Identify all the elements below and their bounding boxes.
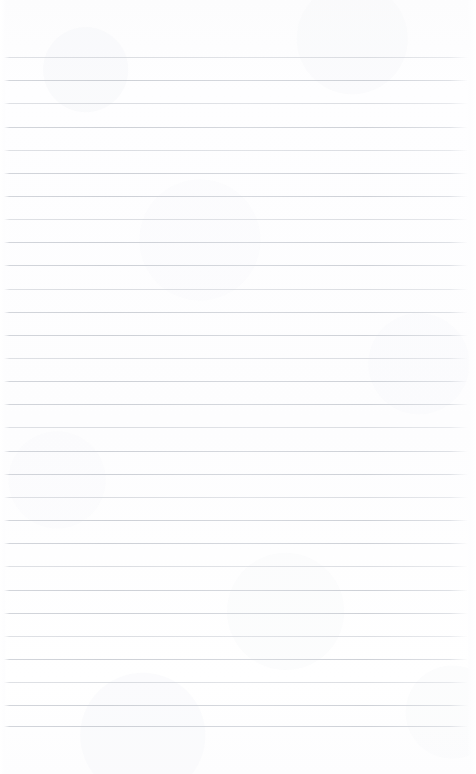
writing-area[interactable] bbox=[0, 0, 476, 774]
lined-paper-page bbox=[0, 0, 476, 774]
